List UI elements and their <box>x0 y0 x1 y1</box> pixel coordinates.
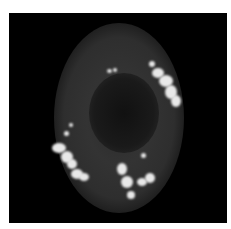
puncta <box>67 159 77 169</box>
puncta <box>141 153 146 158</box>
puncta <box>64 131 69 136</box>
puncta <box>171 95 181 107</box>
puncta <box>117 163 127 175</box>
puncta <box>121 176 133 188</box>
puncta <box>69 123 73 127</box>
puncta <box>149 61 155 67</box>
cell-nucleus-dark-region <box>89 73 159 153</box>
puncta <box>127 191 135 199</box>
puncta <box>107 69 112 73</box>
microscopy-image <box>9 13 227 223</box>
puncta <box>145 173 155 183</box>
puncta <box>79 173 89 181</box>
puncta <box>113 68 117 72</box>
